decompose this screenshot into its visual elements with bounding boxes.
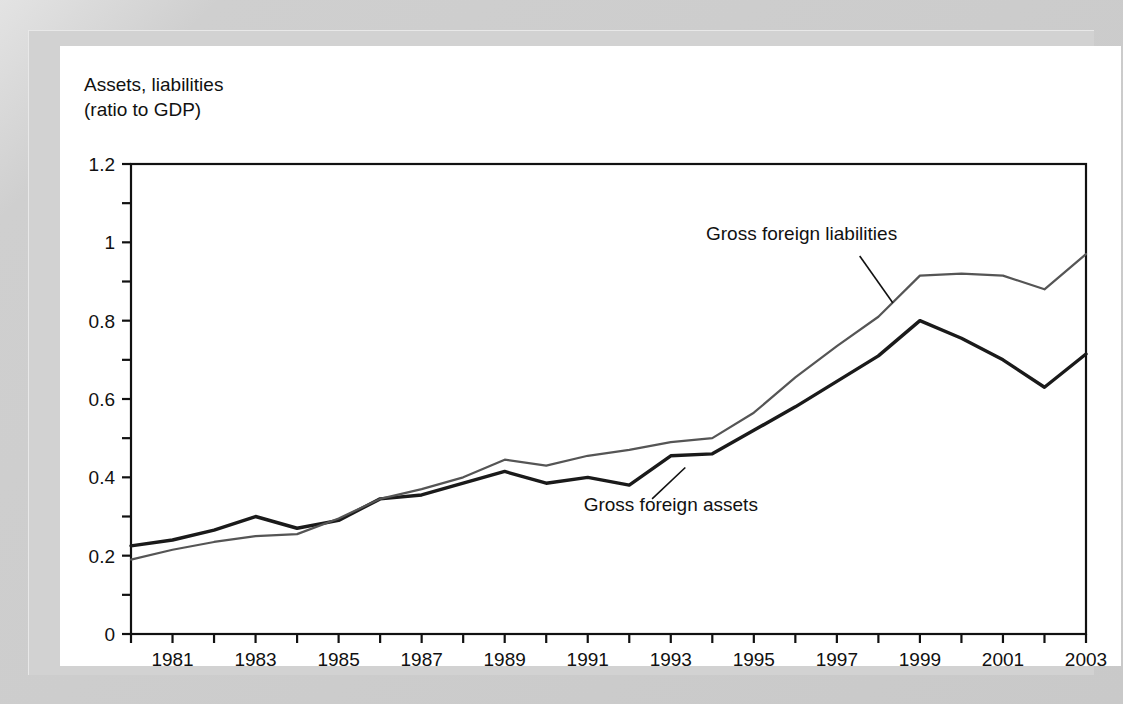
x-axis-tick-label: 1995 bbox=[733, 649, 775, 666]
x-axis-tick-label: 2003 bbox=[1065, 649, 1107, 666]
annotation-label: Gross foreign liabilities bbox=[706, 223, 897, 244]
x-axis-tick-label: 2001 bbox=[982, 649, 1024, 666]
y-axis-tick-label: 0.2 bbox=[89, 546, 115, 567]
x-axis-tick-label: 1991 bbox=[567, 649, 609, 666]
y-axis-tick-label: 0.6 bbox=[89, 389, 115, 410]
x-axis-tick-label: 1999 bbox=[899, 649, 941, 666]
y-axis-tick-label: 1 bbox=[104, 232, 115, 253]
x-axis-tick-label: 1993 bbox=[650, 649, 692, 666]
annotation-label: Gross foreign assets bbox=[584, 494, 758, 515]
y-axis-tick-label: 1.2 bbox=[89, 154, 115, 175]
figure-mat: Assets, liabilities(ratio to GDP) 00.20.… bbox=[28, 30, 1094, 675]
annotation-leader-line bbox=[860, 256, 893, 303]
line-chart: 00.20.40.60.811.219811983198519871989199… bbox=[60, 46, 1121, 666]
chart-canvas: 00.20.40.60.811.219811983198519871989199… bbox=[60, 46, 1121, 666]
y-axis-tick-label: 0 bbox=[104, 624, 115, 645]
y-axis-tick-label: 0.8 bbox=[89, 311, 115, 332]
figure-page: Assets, liabilities(ratio to GDP) 00.20.… bbox=[0, 0, 1123, 704]
x-axis-tick-label: 1985 bbox=[317, 649, 359, 666]
x-axis-tick-label: 1983 bbox=[234, 649, 276, 666]
x-axis-tick-label: 1981 bbox=[151, 649, 193, 666]
x-axis-tick-label: 1997 bbox=[816, 649, 858, 666]
plot-frame bbox=[131, 164, 1086, 634]
y-axis-tick-label: 0.4 bbox=[89, 467, 116, 488]
x-axis-tick-label: 1987 bbox=[401, 649, 443, 666]
x-axis-tick-label: 1989 bbox=[484, 649, 526, 666]
chart-panel: Assets, liabilities(ratio to GDP) 00.20.… bbox=[60, 46, 1121, 666]
